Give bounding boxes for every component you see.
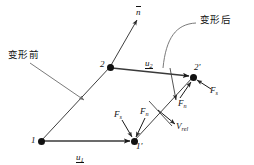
fs-node2p-base: F <box>210 85 216 95</box>
u2-base: u <box>145 58 150 68</box>
u1-base: u <box>76 152 81 162</box>
vrel-subscript: rel <box>182 125 189 132</box>
fs-node2p-subscript: s <box>216 89 218 96</box>
u2-subscript: 2 <box>150 62 153 69</box>
label-after-deformation: 变形后 <box>200 15 231 25</box>
displacement-u2-symbol: u2 <box>145 58 153 69</box>
deformation-diagram: 变形前 变形后 n 1 2 1' 2' u1 u2 Fs Fn Fn Fs Vr… <box>0 0 254 165</box>
displacement-u1-symbol: u1 <box>76 152 84 163</box>
relative-velocity-label: Vrel <box>176 122 188 131</box>
force-label-fs-node2p: Fs <box>210 86 218 95</box>
node-label-1: 1 <box>31 136 36 145</box>
leader-before-deformation <box>30 63 84 100</box>
node-dot-2 <box>107 64 114 71</box>
leader-after-deformation <box>163 23 196 68</box>
displacement-label-u2: u2 <box>145 53 153 69</box>
fn-node1p-base: F <box>140 106 146 116</box>
force-label-fn-node1p: Fn <box>140 107 149 116</box>
node-dot-1 <box>38 138 45 145</box>
fs-node1p-subscript: s <box>120 113 122 120</box>
force-vector-fs-node2p <box>197 80 211 89</box>
fn-node1p-subscript: n <box>146 110 149 117</box>
fs-node1p-base: F <box>114 109 120 119</box>
fn-node2p-subscript: n <box>184 102 187 109</box>
node-dot-2-prime <box>190 74 197 81</box>
node-label-2: 2 <box>100 60 105 69</box>
force-label-fn-node2p: Fn <box>178 99 187 108</box>
force-label-fs-node1p: Fs <box>114 110 122 119</box>
relative-velocity-arrow <box>158 110 175 124</box>
u1-subscript: 1 <box>81 156 84 163</box>
tangent-reference-line <box>149 101 172 126</box>
normal-vector-label: n <box>136 2 141 18</box>
label-before-deformation: 变形前 <box>8 50 39 60</box>
node-label-2-prime: 2' <box>194 63 200 72</box>
force-vector-fs-node1p <box>122 120 132 137</box>
normal-vector-symbol: n <box>136 6 141 17</box>
node-dot-1-prime <box>131 138 138 145</box>
vrel-base: V <box>176 121 182 131</box>
displacement-arrow-u2 <box>112 68 189 76</box>
fn-node2p-base: F <box>178 98 184 108</box>
projection-arrow <box>170 68 176 100</box>
displacement-label-u1: u1 <box>76 147 84 163</box>
